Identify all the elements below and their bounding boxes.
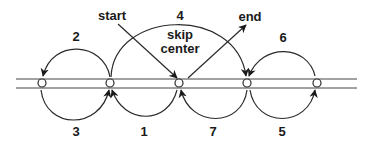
node-4 [243, 79, 251, 87]
arrow-step-2 [43, 49, 110, 77]
step-number-4: 4 [176, 8, 184, 23]
arrow-step-1 [112, 90, 177, 116]
arrow-step-5 [250, 90, 315, 119]
start-label: start [98, 8, 127, 23]
node-3 [175, 79, 183, 87]
step-number-6: 6 [279, 30, 286, 45]
arrow-step-7 [181, 90, 247, 119]
skip-label: skip [167, 27, 193, 42]
sequence-diagram: start end skip center 4 2 6 3 1 7 5 [0, 0, 371, 145]
node-2 [106, 79, 114, 87]
arrow-step-6 [249, 52, 315, 76]
step-number-2: 2 [72, 29, 79, 44]
step-number-7: 7 [209, 124, 216, 139]
end-label: end [238, 9, 261, 24]
arrow-step-3 [41, 90, 109, 120]
node-1 [38, 79, 46, 87]
center-label: center [160, 41, 199, 56]
step-number-5: 5 [278, 124, 285, 139]
node-5 [313, 79, 321, 87]
step-number-3: 3 [72, 124, 79, 139]
step-number-1: 1 [140, 124, 147, 139]
